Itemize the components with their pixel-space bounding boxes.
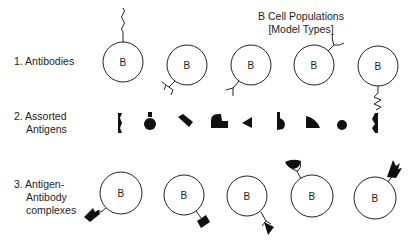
- cell-letters-row-3: B B B B B: [118, 188, 379, 204]
- antigen-quarter-disc: [306, 116, 320, 128]
- b-cell-complex-cup: [288, 162, 333, 217]
- cell-letter: B: [118, 188, 125, 199]
- b-cell-antibody-wavy: [103, 8, 143, 82]
- antigen-bound-triangle: [264, 222, 274, 235]
- cell-letter: B: [375, 61, 382, 72]
- b-cell-antibody-zigzag: [358, 46, 398, 110]
- antigen-bound-tilted-rectangle: [197, 215, 210, 228]
- cell-letter: B: [311, 60, 318, 71]
- antigen-stepped-block: [211, 114, 228, 128]
- cell-letter: B: [309, 191, 316, 202]
- cell-letters-row-1: B B B B B: [120, 57, 382, 72]
- antigen-hook: [277, 112, 285, 130]
- cell-letter: B: [184, 60, 191, 71]
- cell-letter: B: [244, 191, 251, 202]
- antigen-bound-notched-wedge: [84, 208, 100, 222]
- cell-letter: B: [248, 60, 255, 71]
- antigen-round-flask: [144, 112, 156, 130]
- cell-letter: B: [120, 57, 127, 68]
- antigen-double-notched-wedge: [372, 113, 378, 133]
- antigen-bound-double-notched-wedge: [387, 160, 402, 178]
- b-cell-antibody-cup: [294, 34, 344, 85]
- antigen-circle: [337, 120, 347, 130]
- b-cell-complex-wavy: [89, 172, 142, 214]
- antigen-triangle: [242, 117, 252, 128]
- antigen-bound-quarter-disc: [285, 160, 301, 169]
- cell-letter: B: [372, 193, 379, 204]
- diagram-canvas: B B B B B: [0, 0, 415, 244]
- antigen-notched-wedge: [118, 113, 122, 133]
- antigen-tilted-rectangle: [178, 114, 193, 127]
- cell-letter: B: [181, 190, 188, 201]
